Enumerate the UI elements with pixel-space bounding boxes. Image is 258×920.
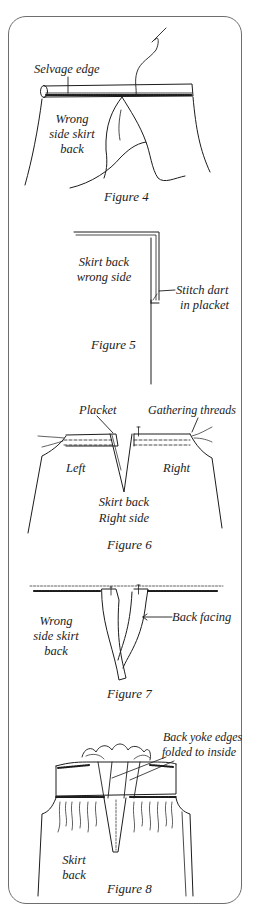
label-fig6-body-1: Skirt back bbox=[92, 495, 156, 510]
label-fig6-body-2: Right side bbox=[92, 511, 156, 526]
sewing-illustrations bbox=[0, 0, 258, 920]
caption-figure-7: Figure 7 bbox=[107, 686, 152, 701]
label-placket: Placket bbox=[79, 403, 116, 418]
caption-figure-6: Figure 6 bbox=[107, 537, 152, 552]
label-stitch-dart-2: in placket bbox=[180, 298, 229, 313]
label-fig7-body-3: back bbox=[30, 644, 82, 659]
label-fig7-body-2: side skirt bbox=[24, 629, 88, 644]
label-fig4-body-1: Wrong bbox=[46, 112, 98, 127]
label-right: Right bbox=[163, 461, 190, 476]
figure-4-drawing bbox=[25, 28, 210, 188]
label-selvage-edge: Selvage edge bbox=[34, 62, 100, 77]
label-gathering-threads: Gathering threads bbox=[148, 403, 236, 418]
label-fig5-body-2: wrong side bbox=[72, 270, 136, 285]
caption-figure-5: Figure 5 bbox=[91, 337, 136, 352]
caption-figure-4: Figure 4 bbox=[104, 189, 149, 204]
label-back-yoke-2: folded to inside bbox=[162, 745, 236, 760]
label-left: Left bbox=[66, 461, 85, 476]
label-back-yoke-1: Back yoke edges bbox=[163, 730, 242, 745]
label-fig8-body-1: Skirt bbox=[56, 853, 92, 868]
caption-figure-8: Figure 8 bbox=[107, 881, 152, 896]
label-fig8-body-2: back bbox=[56, 868, 92, 883]
label-fig7-body-1: Wrong bbox=[30, 614, 82, 629]
label-fig4-body-2: side skirt bbox=[40, 127, 104, 142]
label-fig5-body-1: Skirt back bbox=[72, 255, 136, 270]
label-stitch-dart-1: Stitch dart bbox=[176, 283, 228, 298]
label-back-facing: Back facing bbox=[172, 610, 231, 625]
label-fig4-body-3: back bbox=[46, 142, 98, 157]
